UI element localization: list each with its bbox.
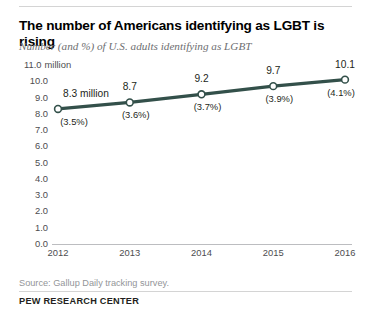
data-point-2012 bbox=[55, 106, 62, 113]
source-note: Source: Gallup Daily tracking survey. bbox=[19, 278, 169, 288]
footer-divider bbox=[19, 291, 352, 292]
value-label-2014: 9.2 bbox=[194, 73, 208, 84]
x-tick-2016: 2016 bbox=[335, 247, 356, 258]
plot-area: 11.0million10.09.08.07.06.05.04.03.02.01… bbox=[0, 58, 367, 258]
data-point-2015 bbox=[270, 83, 277, 90]
percent-label-2013: (3.6%) bbox=[122, 109, 150, 120]
data-point-2014 bbox=[198, 91, 205, 98]
chart-subtitle: Number (and %) of U.S. adults identifyin… bbox=[19, 39, 359, 53]
value-label-2013: 8.7 bbox=[123, 81, 137, 92]
x-tick-2015: 2015 bbox=[263, 247, 284, 258]
percent-label-2015: (3.9%) bbox=[265, 93, 293, 104]
value-label-2012: 8.3 million bbox=[63, 88, 109, 99]
percent-label-2016: (4.1%) bbox=[327, 87, 355, 98]
x-axis-tick-labels: 20122013201420152016 bbox=[0, 247, 367, 265]
percent-label-2014: (3.7%) bbox=[194, 101, 222, 112]
data-point-2016 bbox=[342, 76, 349, 83]
value-label-2015: 9.7 bbox=[266, 65, 280, 76]
value-label-2016: 10.1 bbox=[335, 59, 355, 70]
x-tick-2014: 2014 bbox=[191, 247, 212, 258]
percent-label-2012: (3.5%) bbox=[60, 116, 88, 127]
x-tick-2012: 2012 bbox=[48, 247, 69, 258]
data-point-2013 bbox=[126, 99, 133, 106]
brand-label: PEW RESEARCH CENTER bbox=[19, 296, 139, 306]
line-series bbox=[0, 58, 367, 258]
top-divider bbox=[19, 6, 352, 7]
chart-figure: The number of Americans identifying as L… bbox=[0, 0, 367, 318]
x-tick-2013: 2013 bbox=[119, 247, 140, 258]
